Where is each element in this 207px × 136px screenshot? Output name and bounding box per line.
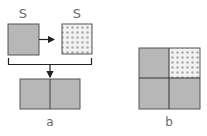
- panel-b-label: b: [165, 115, 173, 129]
- grid-cell-top-left: [139, 48, 169, 78]
- source-gray-square: [8, 24, 39, 55]
- panel-a: S S a: [8, 6, 92, 129]
- target-dotted-square: [62, 24, 92, 54]
- grid-cell-bottom-left: [139, 78, 169, 109]
- grid-cell-bottom-right: [169, 78, 200, 109]
- source-square-label: S: [19, 6, 27, 21]
- panel-a-label: a: [46, 115, 53, 129]
- combine-bracket: [9, 58, 92, 65]
- target-square-label: S: [73, 6, 81, 21]
- panel-b: b: [139, 48, 200, 129]
- diagram-canvas: S S a b: [0, 0, 207, 136]
- grid-cell-top-right: [169, 48, 200, 78]
